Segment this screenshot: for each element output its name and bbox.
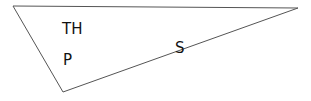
triangle-diagram: TH P S <box>0 0 311 101</box>
label-th: TH <box>61 20 82 38</box>
triangle-shape <box>13 6 298 92</box>
label-s: S <box>175 39 185 57</box>
label-p: P <box>63 51 72 69</box>
